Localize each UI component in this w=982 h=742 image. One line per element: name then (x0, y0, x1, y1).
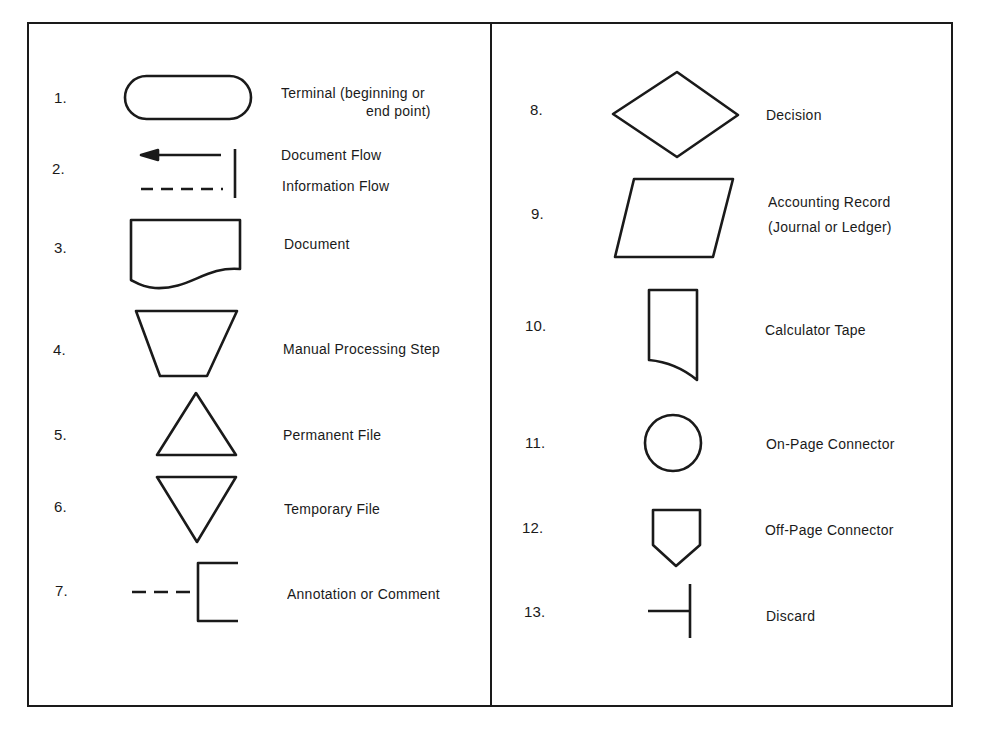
item-number: 11. (525, 434, 545, 451)
symbol-label: Manual Processing Step (283, 340, 440, 358)
symbol-label: Document Flow (281, 146, 381, 164)
flow-lines-icon (141, 149, 235, 198)
decision-icon (613, 72, 738, 157)
item-number: 13. (524, 603, 545, 620)
terminal-icon (125, 76, 251, 119)
symbol-label: Annotation or Comment (287, 585, 440, 603)
symbol-label: Terminal (beginning or (281, 84, 425, 102)
symbol-label: Permanent File (283, 426, 381, 444)
item-number: 8. (530, 101, 543, 118)
calculator-tape-icon (649, 290, 697, 380)
permanent-file-icon (157, 393, 236, 455)
document-icon (131, 220, 240, 288)
manual-processing-icon (136, 311, 237, 376)
item-number: 7. (55, 582, 68, 599)
symbol-label: Discard (766, 607, 815, 625)
item-number: 2. (52, 160, 65, 177)
on-page-connector-icon (645, 415, 701, 471)
symbol-label-line2: end point) (366, 102, 431, 120)
symbol-label: Document (284, 235, 350, 253)
symbol-label: Off-Page Connector (765, 521, 894, 539)
symbol-label-line2: Information Flow (282, 177, 389, 195)
symbol-label: Calculator Tape (765, 321, 866, 339)
symbol-label-line2: (Journal or Ledger) (768, 218, 892, 236)
item-number: 5. (54, 426, 67, 443)
off-page-connector-icon (653, 510, 700, 566)
symbol-label: Decision (766, 106, 822, 124)
temporary-file-icon (157, 477, 236, 542)
item-number: 1. (54, 89, 67, 106)
item-number: 12. (522, 519, 543, 536)
item-number: 4. (53, 341, 66, 358)
symbol-label: Temporary File (284, 500, 380, 518)
symbol-label: Accounting Record (768, 193, 890, 211)
discard-icon (648, 584, 690, 638)
item-number: 10. (525, 317, 546, 334)
item-number: 6. (54, 498, 67, 515)
item-number: 9. (531, 205, 544, 222)
item-number: 3. (54, 239, 67, 256)
symbol-label: On-Page Connector (766, 435, 895, 453)
accounting-record-icon (615, 179, 733, 257)
annotation-icon (132, 563, 238, 621)
symbol-shapes (0, 0, 982, 742)
